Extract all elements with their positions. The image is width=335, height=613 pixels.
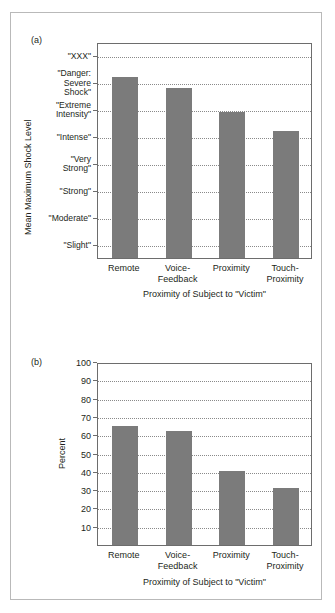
y-tick-label: "Extreme Intensity" bbox=[33, 101, 91, 120]
y-tick-mark bbox=[93, 454, 97, 455]
figure-frame: (a) Mean Maximum Shock Level "XXX""Dange… bbox=[10, 12, 322, 600]
y-tick-mark bbox=[93, 83, 97, 84]
x-tick-label: Voice- Feedback bbox=[147, 263, 209, 284]
chart-panel-b: (b) Percent 100908070605040302010 Remote… bbox=[11, 309, 321, 599]
y-tick-label: 50 bbox=[69, 450, 91, 460]
y-tick-label: 70 bbox=[69, 413, 91, 423]
y-tick-label: "Strong" bbox=[33, 187, 91, 197]
panel-b-label: (b) bbox=[31, 357, 42, 367]
gridline bbox=[98, 418, 311, 419]
x-tick-label: Touch- Proximity bbox=[254, 550, 316, 571]
bar bbox=[112, 426, 138, 545]
y-tick-mark bbox=[93, 490, 97, 491]
y-tick-mark bbox=[93, 417, 97, 418]
x-tick-label: Touch- Proximity bbox=[254, 263, 316, 284]
panel-b-plot-area bbox=[97, 363, 312, 546]
x-tick-label: Proximity bbox=[201, 550, 263, 561]
y-tick-mark bbox=[93, 137, 97, 138]
y-tick-mark bbox=[93, 191, 97, 192]
panel-a-plot-area bbox=[97, 43, 312, 259]
panel-b-y-axis-title: Percent bbox=[57, 438, 67, 469]
chart-panel-a: (a) Mean Maximum Shock Level "XXX""Dange… bbox=[11, 13, 321, 309]
gridline bbox=[98, 381, 311, 382]
bar bbox=[166, 88, 192, 258]
panel-a-y-axis-title: Mean Maximum Shock Level bbox=[23, 119, 33, 235]
y-tick-label: "Very Strong" bbox=[33, 155, 91, 174]
y-tick-mark bbox=[93, 399, 97, 400]
y-tick-mark bbox=[93, 218, 97, 219]
x-tick-label: Remote bbox=[93, 550, 155, 561]
y-tick-label: "XXX" bbox=[33, 52, 91, 62]
y-tick-label: 80 bbox=[69, 395, 91, 405]
x-tick-label: Remote bbox=[93, 263, 155, 274]
y-tick-mark bbox=[93, 435, 97, 436]
y-tick-label: 60 bbox=[69, 431, 91, 441]
y-tick-label: "Slight" bbox=[33, 241, 91, 251]
bar bbox=[166, 431, 192, 545]
gridline bbox=[98, 400, 311, 401]
y-tick-mark bbox=[93, 110, 97, 111]
bar bbox=[219, 471, 245, 545]
y-tick-label: "Danger: Severe Shock" bbox=[33, 69, 91, 98]
y-tick-mark bbox=[93, 508, 97, 509]
y-tick-label: 100 bbox=[69, 358, 91, 368]
panel-a-x-axis-title: Proximity of Subject to "Victim" bbox=[97, 289, 312, 299]
x-tick-label: Voice- Feedback bbox=[147, 550, 209, 571]
y-tick-label: 10 bbox=[69, 523, 91, 533]
y-tick-mark bbox=[93, 527, 97, 528]
y-tick-mark bbox=[93, 362, 97, 363]
bar bbox=[219, 112, 245, 258]
y-tick-label: 40 bbox=[69, 468, 91, 478]
x-tick-label: Proximity bbox=[201, 263, 263, 274]
y-tick-label: 30 bbox=[69, 486, 91, 496]
y-tick-mark bbox=[93, 472, 97, 473]
y-tick-mark bbox=[93, 380, 97, 381]
y-tick-label: "Intense" bbox=[33, 133, 91, 143]
panel-a-label: (a) bbox=[31, 35, 42, 45]
y-tick-mark bbox=[93, 56, 97, 57]
y-tick-label: 90 bbox=[69, 376, 91, 386]
bar bbox=[273, 131, 299, 258]
gridline bbox=[98, 57, 311, 58]
y-tick-mark bbox=[93, 164, 97, 165]
panel-b-x-axis-title: Proximity of Subject to "Victim" bbox=[97, 577, 312, 587]
y-tick-label: "Moderate" bbox=[33, 214, 91, 224]
bar bbox=[112, 77, 138, 258]
bar bbox=[273, 488, 299, 545]
y-tick-label: 20 bbox=[69, 504, 91, 514]
y-tick-mark bbox=[93, 245, 97, 246]
